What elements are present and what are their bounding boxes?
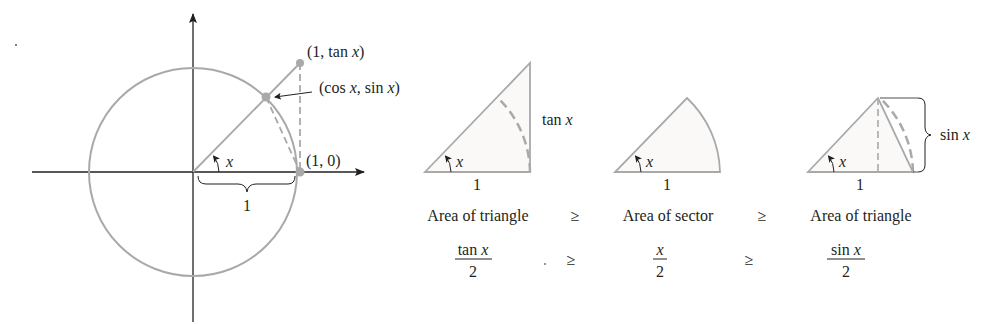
angle-label: x bbox=[645, 153, 653, 170]
height-brace bbox=[918, 98, 931, 172]
relation-ge: ≥ bbox=[758, 207, 767, 224]
point-one-zero bbox=[296, 168, 305, 177]
angle-arrow-icon bbox=[214, 156, 220, 172]
small-triangle-shape bbox=[808, 98, 913, 172]
side-label-sin: sin x bbox=[940, 126, 970, 143]
captions-row: Area of triangle ≥ Area of sector ≥ Area… bbox=[427, 207, 911, 225]
diagram-canvas: x (1, tan x) (cos x, sin x) (1, 0) 1 x 1… bbox=[0, 0, 1006, 324]
formula-sector-numerator: x bbox=[655, 241, 663, 258]
radius-brace bbox=[198, 176, 295, 192]
point-tan bbox=[296, 59, 304, 67]
formula-tan-denominator: 2 bbox=[469, 263, 477, 280]
unit-circle-figure: x (1, tan x) (cos x, sin x) (1, 0) 1 bbox=[32, 14, 400, 322]
label-cos-sin-point: (cos x, sin x) bbox=[319, 79, 400, 97]
chord-dashed-line bbox=[266, 97, 300, 172]
base-label: 1 bbox=[663, 176, 671, 193]
label-one-zero: (1, 0) bbox=[306, 152, 341, 170]
label-tan-point: (1, tan x) bbox=[307, 43, 364, 61]
panel-small-triangle: x 1 sin x bbox=[808, 98, 970, 193]
stray-mark bbox=[544, 263, 546, 265]
formula-sin-numerator: sin x bbox=[831, 241, 861, 258]
point-cos-sin bbox=[262, 93, 271, 102]
base-label: 1 bbox=[473, 176, 481, 193]
formulas-row: tan x 2 ≥ x 2 ≥ sin x 2 bbox=[455, 241, 865, 280]
angle-label: x bbox=[225, 153, 233, 170]
caption-small-triangle: Area of triangle bbox=[810, 207, 911, 225]
relation-ge: ≥ bbox=[571, 207, 580, 224]
angle-label: x bbox=[838, 153, 846, 170]
sector-shape bbox=[615, 98, 720, 172]
stray-dot bbox=[15, 44, 17, 46]
pointer-arrow-icon bbox=[275, 92, 312, 97]
relation-ge: ≥ bbox=[745, 251, 754, 268]
formula-sin-denominator: 2 bbox=[842, 263, 850, 280]
formula-tan-numerator: tan x bbox=[458, 241, 489, 258]
side-label-tan: tan x bbox=[542, 111, 573, 128]
caption-large-triangle: Area of triangle bbox=[427, 207, 528, 225]
panel-large-triangle: x 1 tan x bbox=[425, 63, 573, 193]
caption-sector: Area of sector bbox=[623, 207, 714, 224]
radius-label: 1 bbox=[243, 197, 251, 214]
formula-sector-denominator: 2 bbox=[656, 263, 664, 280]
ray-line bbox=[193, 63, 300, 172]
angle-label: x bbox=[455, 153, 463, 170]
base-label: 1 bbox=[856, 176, 864, 193]
panel-sector: x 1 bbox=[615, 98, 720, 193]
relation-ge: ≥ bbox=[567, 251, 576, 268]
